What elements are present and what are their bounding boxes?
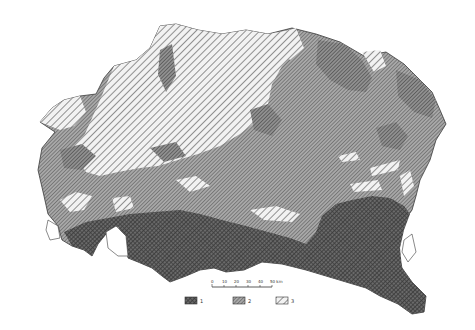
- legend-swatch-3: [276, 297, 288, 304]
- legend-swatch-2: [233, 297, 245, 304]
- legend-swatch-1: [185, 297, 197, 304]
- legend-label-1: 1: [200, 298, 203, 304]
- legend-item-2: 2: [233, 297, 251, 304]
- scale-bar: 0 10 20 30 40 50 km: [211, 279, 283, 287]
- scale-tick-10: 10: [222, 279, 228, 284]
- hatched-map: 0 10 20 30 40 50 km 1 2 3: [0, 0, 475, 330]
- scale-tick-50: 50 km: [270, 279, 283, 284]
- legend-label-2: 2: [248, 298, 251, 304]
- scale-tick-0: 0: [211, 279, 214, 284]
- scale-tick-20: 20: [234, 279, 240, 284]
- legend-item-3: 3: [276, 297, 294, 304]
- legend-item-1: 1: [185, 297, 203, 304]
- map-legend: 1 2 3: [185, 297, 294, 304]
- scale-tick-30: 30: [246, 279, 252, 284]
- legend-label-3: 3: [291, 298, 294, 304]
- scale-tick-40: 40: [258, 279, 264, 284]
